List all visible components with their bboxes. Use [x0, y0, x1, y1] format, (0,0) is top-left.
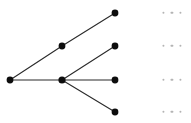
nodes-layer — [7, 10, 119, 116]
ellipsis-dot — [179, 79, 181, 81]
ellipsis-dot — [171, 12, 173, 14]
leaf-node-3 — [112, 77, 119, 84]
ellipsis-row-3 — [162, 79, 181, 81]
ellipsis-row-4 — [162, 111, 181, 113]
ellipsis-dot — [171, 111, 173, 113]
edge-root-to-upper — [10, 46, 62, 80]
leaf-node-4 — [112, 109, 119, 116]
ellipsis-row-1 — [162, 12, 181, 14]
ellipsis-dot — [179, 12, 181, 14]
edge-upper-to-leaf1 — [62, 13, 115, 46]
tree-diagram — [0, 0, 191, 123]
upper-branch-node — [59, 43, 66, 50]
edge-hub-to-leaf4 — [62, 80, 115, 112]
ellipsis-row-2 — [162, 45, 181, 47]
edge-hub-to-leaf2 — [62, 46, 115, 80]
root-node — [7, 77, 14, 84]
ellipsis-dot — [171, 79, 173, 81]
leaf-node-1 — [112, 10, 119, 17]
ellipsis-dot — [162, 45, 164, 47]
ellipsis-dot — [179, 111, 181, 113]
edges-layer — [10, 13, 115, 112]
leaf-node-2 — [112, 43, 119, 50]
hub-node — [58, 76, 65, 83]
ellipsis-dot — [162, 12, 164, 14]
ellipsis-dot — [179, 45, 181, 47]
ellipsis-dot — [171, 45, 173, 47]
tree-graph-canvas — [0, 0, 191, 123]
ellipsis-dot — [162, 111, 164, 113]
ellipsis-dot — [162, 79, 164, 81]
